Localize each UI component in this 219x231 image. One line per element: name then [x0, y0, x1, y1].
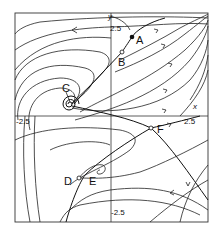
point-b-label: B	[118, 56, 125, 68]
arrow-up-right-icon	[162, 109, 166, 113]
point-a-marker	[130, 35, 135, 40]
point-a-label: A	[136, 34, 144, 46]
y-max-tick: 2.5	[110, 24, 122, 33]
trajectories	[15, 14, 208, 222]
arrow-up-right-icon	[163, 89, 167, 93]
point-e-label: E	[89, 175, 96, 187]
arrow-up-right-icon	[168, 63, 172, 67]
x-max-tick: 2.5	[184, 117, 196, 126]
point-d-label: D	[64, 175, 72, 187]
arrow-up-right-icon	[167, 123, 171, 127]
x-min-tick: -2.5	[16, 117, 30, 126]
arrowheads	[72, 27, 190, 195]
point-f-label: F	[157, 123, 164, 135]
arrow-up-right-icon	[161, 44, 165, 48]
point-f-marker	[149, 126, 153, 130]
plot-frame	[15, 13, 208, 222]
phase-portrait: y 2.5 x 2.5 -2.5 -2.5 A B C D E F	[0, 0, 219, 231]
point-b-marker	[120, 50, 124, 54]
arrow-up-icon	[186, 182, 190, 186]
point-d-marker	[77, 176, 81, 180]
arrow-up-right-icon	[154, 29, 158, 33]
y-min-tick: -2.5	[111, 208, 125, 217]
point-c-label: C	[62, 82, 70, 94]
x-axis-label: x	[192, 102, 198, 111]
